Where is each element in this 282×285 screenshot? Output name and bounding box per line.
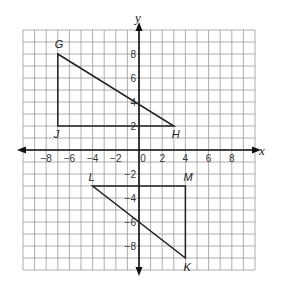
x-tick-label: −4 <box>87 153 99 164</box>
y-tick-label: −4 <box>125 193 137 204</box>
y-tick-label: −2 <box>125 169 137 180</box>
vertex-label-l: L <box>89 171 95 183</box>
x-tick-label: 8 <box>229 153 235 164</box>
y-axis-label: y <box>133 10 141 25</box>
vertex-label-g: G <box>55 38 64 50</box>
x-tick-label: 4 <box>183 153 189 164</box>
vertex-label-j: J <box>53 128 60 140</box>
y-tick-label: 6 <box>130 73 136 84</box>
axes <box>17 22 261 276</box>
triangles <box>58 54 186 258</box>
y-tick-label: −8 <box>125 241 137 252</box>
x-tick-label: −6 <box>64 153 76 164</box>
x-tick-label: 2 <box>159 153 165 164</box>
x-tick-label: −8 <box>40 153 52 164</box>
vertex-label-h: H <box>172 128 180 140</box>
vertex-label-m: M <box>183 171 193 183</box>
vertex-label-k: K <box>183 261 191 273</box>
coordinate-plane: −8−6−4−2024682468−2−4−6−8 GHJLMK x y <box>0 0 282 285</box>
x-tick-label: 0 <box>140 153 146 164</box>
arrow-down-icon <box>136 267 143 276</box>
x-tick-label: −2 <box>110 153 122 164</box>
x-tick-label: 6 <box>206 153 212 164</box>
x-axis-label: x <box>258 143 265 158</box>
arrow-left-icon <box>17 147 26 154</box>
y-tick-label: 8 <box>130 49 136 60</box>
